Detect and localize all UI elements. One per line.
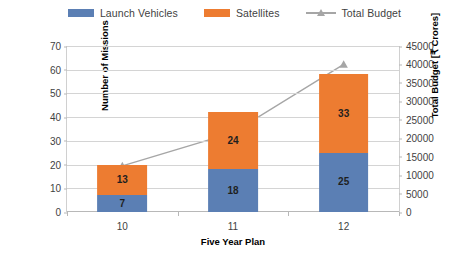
chart-container: Launch Vehicles Satellites Total Budget … xyxy=(0,0,469,262)
x-axis-tick-mark xyxy=(178,212,179,216)
y-axis-left-title: Number of Missions xyxy=(99,0,110,149)
x-axis-title: Five Year Plan xyxy=(66,236,400,247)
x-axis-tick-mark xyxy=(399,212,400,216)
bar-segment-launch-vehicles[interactable]: 18 xyxy=(208,169,258,212)
x-axis-tick-mark xyxy=(288,212,289,216)
bar-value-label-launch-vehicles: 7 xyxy=(120,199,126,209)
y-axis-right-tick-label: 10000 xyxy=(399,170,445,181)
line-marker-triangle-icon xyxy=(339,60,347,68)
legend-label-launch-vehicles: Launch Vehicles xyxy=(100,7,178,19)
y-axis-left-tick-label: 20 xyxy=(33,159,67,170)
legend-swatch-icon-satellites xyxy=(204,9,230,17)
legend-item-satellites[interactable]: Satellites xyxy=(204,7,280,19)
y-axis-right-tick-label: 35000 xyxy=(399,77,445,88)
bar-segment-launch-vehicles[interactable]: 7 xyxy=(97,195,147,212)
y-axis-right-tick-label: 0 xyxy=(399,207,445,218)
y-axis-right-tick-label: 15000 xyxy=(399,151,445,162)
x-axis-tick-label: 12 xyxy=(338,221,349,232)
legend-label-total-budget: Total Budget xyxy=(342,7,402,19)
y-axis-right-tick-label: 5000 xyxy=(399,188,445,199)
y-axis-left-tick-label: 10 xyxy=(33,183,67,194)
chart-legend: Launch Vehicles Satellites Total Budget xyxy=(0,3,469,23)
y-axis-left-tick-label: 50 xyxy=(33,88,67,99)
bar-value-label-launch-vehicles: 18 xyxy=(227,186,238,196)
bar-value-label-satellites: 33 xyxy=(338,109,349,119)
bar-segment-satellites[interactable]: 24 xyxy=(208,112,258,169)
plot-area: Number of Missions Total Budget [₹ Crore… xyxy=(66,46,400,212)
x-axis-tick-label: 11 xyxy=(228,221,238,232)
y-axis-left-tick-label: 30 xyxy=(33,135,67,146)
y-axis-left-tick-label: 60 xyxy=(33,64,67,75)
stacked-bar-11[interactable]: 2418 xyxy=(208,112,258,212)
legend-swatch-icon-launch-vehicles xyxy=(68,9,94,17)
bar-segment-launch-vehicles[interactable]: 25 xyxy=(319,153,369,212)
x-axis-tick-label: 10 xyxy=(117,221,128,232)
bar-value-label-satellites: 24 xyxy=(227,136,238,146)
y-axis-right-title: Total Budget [₹ Crores] xyxy=(429,0,440,149)
y-axis-left-tick-label: 40 xyxy=(33,112,67,123)
gridline xyxy=(67,46,399,47)
legend-line-marker-icon-total-budget xyxy=(306,8,336,18)
gridline xyxy=(67,70,399,71)
legend-item-launch-vehicles[interactable]: Launch Vehicles xyxy=(68,7,178,19)
legend-item-total-budget[interactable]: Total Budget xyxy=(306,7,402,19)
bar-segment-satellites[interactable]: 13 xyxy=(97,165,147,196)
bar-value-label-launch-vehicles: 25 xyxy=(338,177,349,187)
y-axis-left-tick-label: 0 xyxy=(33,207,67,218)
y-axis-right-tick-label: 30000 xyxy=(399,96,445,107)
y-axis-right-tick-label: 20000 xyxy=(399,133,445,144)
y-axis-left-tick-label: 70 xyxy=(33,41,67,52)
y-axis-right-tick-label: 40000 xyxy=(399,59,445,70)
x-axis-tick-mark xyxy=(67,212,68,216)
stacked-bar-10[interactable]: 137 xyxy=(97,165,147,212)
legend-label-satellites: Satellites xyxy=(236,7,280,19)
stacked-bar-12[interactable]: 3325 xyxy=(319,74,369,212)
bar-segment-satellites[interactable]: 33 xyxy=(319,74,369,152)
y-axis-right-tick-label: 45000 xyxy=(399,41,445,52)
y-axis-right-tick-label: 25000 xyxy=(399,114,445,125)
bar-value-label-satellites: 13 xyxy=(117,175,128,185)
